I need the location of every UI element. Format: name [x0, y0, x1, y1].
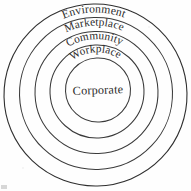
rings-canvas: EnvironmentMarketplaceCommunityWorkplace… [0, 0, 191, 191]
ring-labels-group: EnvironmentMarketplaceCommunityWorkplace [60, 2, 128, 63]
concentric-rings-diagram: EnvironmentMarketplaceCommunityWorkplace… [0, 0, 191, 191]
center-label-corporate: Corporate [72, 82, 123, 98]
scan-artifact [1, 185, 7, 189]
